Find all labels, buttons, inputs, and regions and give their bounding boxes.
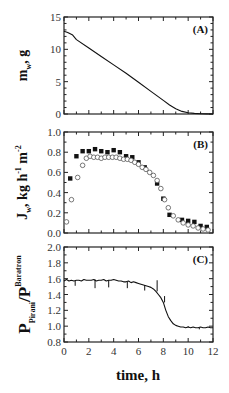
y-tick-label: 0.8: [47, 146, 61, 158]
x-tick-label: 4: [111, 345, 117, 357]
ylabel-main: J: [15, 213, 30, 220]
data-point-open-circle: [191, 224, 196, 229]
data-point-open-circle: [206, 228, 211, 233]
x-tick-label: 2: [86, 345, 92, 357]
data-point-open-circle: [171, 214, 176, 219]
x-tick-label: 10: [183, 345, 195, 357]
y-tick-label: 15: [50, 11, 62, 23]
series-line: [64, 31, 213, 114]
data-point-open-circle: [181, 221, 186, 226]
data-point-open-circle: [69, 197, 74, 202]
y-tick-label: 1.2: [47, 304, 61, 316]
data-point-open-circle: [151, 173, 156, 178]
y-tick-label: 5: [56, 76, 62, 88]
ylabel-main: m: [15, 69, 30, 81]
data-point-open-circle: [166, 205, 171, 210]
data-point-filled-square: [99, 149, 103, 153]
ylabel-sup: -1: [14, 167, 23, 174]
panel-a: 051015(A)mw, g: [15, 11, 213, 120]
panel-label: (C): [193, 253, 209, 266]
y-tick-label: 2.0: [47, 241, 61, 253]
data-point-filled-square: [105, 150, 109, 154]
data-point-open-circle: [80, 163, 85, 168]
panel-label: (B): [193, 138, 208, 151]
data-point-open-circle: [176, 218, 181, 223]
data-point-open-circle: [155, 178, 160, 183]
data-point-filled-square: [87, 149, 91, 153]
data-point-open-circle: [201, 227, 206, 232]
data-point-filled-square: [93, 147, 97, 151]
data-point-open-circle: [75, 175, 80, 180]
data-point-open-circle: [162, 197, 167, 202]
data-point-filled-square: [80, 149, 84, 153]
y-tick-label: 1.6: [47, 273, 61, 285]
panels: 051015(A)mw, g0.00.20.40.60.81.0(B)Jw, k…: [14, 11, 219, 357]
y-tick-label: 0.8: [47, 336, 61, 348]
ylabel-sub2: Baratron: [14, 255, 23, 287]
x-tick-label: 12: [208, 345, 219, 357]
x-axis-title: time, h: [116, 367, 161, 383]
y-tick-label: 0.2: [47, 207, 61, 219]
y-tick-label: 0.4: [47, 187, 61, 199]
y-tick-label: 1.4: [47, 289, 61, 301]
ylabel-sub: Pirani: [28, 301, 37, 323]
data-point-open-circle: [196, 226, 201, 231]
plot-frame: [64, 17, 213, 114]
ylabel-rest: , kg h: [15, 174, 30, 207]
panel-b: 0.00.20.40.60.81.0(B)Jw, kg h-1 m-2: [14, 126, 213, 239]
data-point-filled-square: [118, 150, 122, 154]
data-point-filled-square: [74, 154, 78, 158]
y-axis-title: PPirani/PBaratron: [14, 255, 37, 334]
y-tick-label: 0.6: [47, 166, 61, 178]
y-tick-label: 1.8: [47, 257, 61, 269]
data-point-open-circle: [64, 220, 69, 225]
y-axis-title: Jw, kg h-1 m-2: [14, 145, 33, 219]
ylabel-main: P: [15, 323, 34, 333]
series-line: [64, 279, 213, 327]
panel-label: (A): [193, 23, 209, 36]
x-tick-label: 6: [136, 345, 142, 357]
ylabel-rest: /P: [15, 287, 34, 303]
data-point-open-circle: [159, 186, 164, 191]
y-tick-label: 0.0: [47, 227, 61, 239]
ylabel-sup2: -2: [14, 145, 23, 152]
y-tick-label: 0: [56, 108, 62, 120]
ylabel-rest2: m: [15, 152, 30, 168]
chart-figure: 051015(A)mw, g0.00.20.40.60.81.0(B)Jw, k…: [0, 0, 229, 393]
y-tick-label: 10: [50, 43, 62, 55]
plot-frame: [64, 132, 213, 233]
y-tick-label: 1.0: [47, 126, 61, 138]
y-axis-title: mw, g: [15, 50, 33, 81]
data-point-filled-square: [111, 148, 115, 152]
panel-c: 0.81.01.21.41.61.82.0024681012(C)PPirani…: [14, 241, 219, 357]
data-point-filled-square: [68, 176, 72, 180]
x-tick-label: 8: [161, 345, 167, 357]
y-tick-label: 1.0: [47, 320, 61, 332]
ylabel-rest: , g: [15, 50, 30, 64]
data-point-open-circle: [186, 223, 191, 228]
x-tick-label: 0: [61, 345, 67, 357]
